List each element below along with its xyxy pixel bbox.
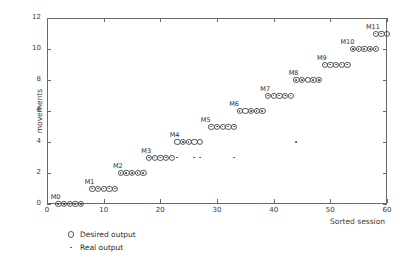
cluster-label-m5: M5 [201, 116, 211, 124]
data-point-real [199, 157, 201, 159]
x-tick-mark [47, 199, 48, 203]
data-point-real [91, 188, 93, 190]
y-tick-mark-right [383, 111, 387, 112]
y-tick-mark [47, 49, 51, 50]
data-point-real [57, 203, 59, 205]
data-point-real [256, 110, 258, 112]
data-point-real [346, 64, 348, 66]
dot-icon [62, 247, 80, 249]
data-point-real [108, 188, 110, 190]
x-tick-label: 30 [204, 206, 230, 214]
data-point-real [375, 48, 377, 50]
data-point-real [233, 126, 235, 128]
data-point-real [358, 48, 360, 50]
x-tick-mark [160, 199, 161, 203]
data-point-real [278, 95, 280, 97]
x-tick-mark-top [104, 18, 105, 22]
legend-label-desired: Desired output [80, 230, 136, 239]
y-tick-label: 2 [15, 168, 41, 176]
cluster-label-m2: M2 [113, 162, 123, 170]
data-point-real [120, 172, 122, 174]
open-circle-icon [62, 231, 80, 237]
legend-item-desired: Desired output [62, 228, 136, 241]
x-tick-mark-top [47, 18, 48, 22]
cluster-label-m10: M10 [340, 38, 354, 46]
data-point-real [142, 172, 144, 174]
x-tick-mark-top [387, 18, 388, 22]
chart-legend: Desired output Real output [62, 228, 136, 254]
x-tick-label: 50 [317, 206, 343, 214]
y-tick-label: 10 [15, 44, 41, 52]
x-tick-mark-top [274, 18, 275, 22]
x-tick-mark [217, 199, 218, 203]
data-point-real [125, 172, 127, 174]
y-tick-mark [47, 111, 51, 112]
x-tick-label: 40 [261, 206, 287, 214]
cluster-label-m3: M3 [141, 147, 151, 155]
data-point-real [233, 157, 235, 159]
data-point-real [148, 157, 150, 159]
y-axis-label: movements [35, 89, 44, 133]
scatter-plot-figure: 024681012 0102030405060 M0M1M2M3M4M5M6M7… [0, 0, 411, 267]
cluster-label-m7: M7 [260, 85, 270, 93]
data-point-real [137, 172, 139, 174]
data-point-real [295, 141, 297, 143]
x-tick-mark-top [160, 18, 161, 22]
data-point-real [324, 64, 326, 66]
data-point-real [352, 48, 354, 50]
data-point-real [341, 64, 343, 66]
data-point-real [312, 79, 314, 81]
x-tick-label: 60 [374, 206, 400, 214]
data-point-real [165, 157, 167, 159]
data-point-real [295, 79, 297, 81]
cluster-label-m1: M1 [85, 178, 95, 186]
x-tick-mark [387, 199, 388, 203]
data-point-real [250, 110, 252, 112]
y-tick-mark [47, 204, 51, 205]
data-point-real [380, 33, 382, 35]
x-tick-mark [330, 199, 331, 203]
data-point-real [182, 141, 184, 143]
data-point-real [318, 79, 320, 81]
data-point-real [193, 157, 195, 159]
x-tick-label: 20 [147, 206, 173, 214]
data-point-real [369, 48, 371, 50]
y-tick-mark-right [383, 49, 387, 50]
data-point-real [239, 110, 241, 112]
x-axis-line [47, 203, 387, 204]
data-point-real [103, 188, 105, 190]
x-tick-mark-top [330, 18, 331, 22]
y-tick-mark-right [383, 204, 387, 205]
data-point-real [74, 203, 76, 205]
data-point-real [210, 126, 212, 128]
data-point-real [97, 188, 99, 190]
y-tick-mark-right [383, 142, 387, 143]
y-tick-mark [47, 80, 51, 81]
data-point-real [69, 203, 71, 205]
data-point-desired [197, 139, 203, 145]
data-point-real [261, 110, 263, 112]
y-tick-mark [47, 142, 51, 143]
x-tick-label: 10 [91, 206, 117, 214]
x-tick-mark [104, 199, 105, 203]
data-point-real [176, 157, 178, 159]
data-point-real [227, 126, 229, 128]
data-point-real [301, 79, 303, 81]
data-point-real [329, 64, 331, 66]
cluster-label-m11: M11 [366, 23, 380, 31]
legend-item-real: Real output [62, 241, 136, 254]
x-tick-label: 0 [34, 206, 60, 214]
cluster-label-m9: M9 [317, 54, 327, 62]
data-point-real [222, 126, 224, 128]
x-tick-mark-top [217, 18, 218, 22]
cluster-label-m6: M6 [229, 100, 239, 108]
y-tick-mark-right [383, 173, 387, 174]
data-point-real [154, 157, 156, 159]
data-point-real [363, 48, 365, 50]
y-tick-label: 8 [15, 75, 41, 83]
data-point-real [216, 126, 218, 128]
data-point-real [267, 95, 269, 97]
legend-label-real: Real output [80, 243, 123, 252]
y-tick-mark-right [383, 80, 387, 81]
data-point-real [375, 33, 377, 35]
